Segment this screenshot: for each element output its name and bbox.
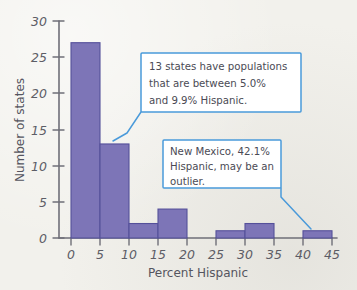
x-tick-label-25: 25 [208, 247, 224, 262]
histogram-bar-30-35 [245, 224, 274, 238]
x-axis-title: Percent Hispanic [148, 266, 248, 280]
y-tick-label-20: 20 [31, 86, 47, 101]
chart-figure: 0 5 10 15 20 25 30 0 5 10 15 20 [0, 0, 357, 290]
x-tick-label-40: 40 [295, 247, 311, 262]
y-axis-tick-labels: 0 5 10 15 20 25 30 [31, 14, 47, 246]
y-tick-label-25: 25 [31, 50, 47, 65]
x-tick-label-30: 30 [237, 247, 253, 262]
leader-line-annotation-outlier [281, 188, 311, 229]
x-axis-tick-labels: 0 5 10 15 20 25 30 35 40 45 [67, 247, 340, 262]
annotation-outlier-line-2: Hispanic, may be an [170, 161, 274, 172]
annotation-bin-5-10-line-2: that are between 5.0% [149, 78, 266, 89]
x-tick-label-35: 35 [266, 247, 282, 262]
histogram-bar-40-45 [303, 231, 332, 238]
x-tick-label-45: 45 [324, 247, 340, 262]
annotation-outlier: New Mexico, 42.1% Hispanic, may be an ou… [163, 140, 281, 188]
annotation-bin-5-10-line-1: 13 states have populations [149, 61, 287, 72]
leader-line-annotation-bin-5-10 [113, 112, 141, 141]
annotation-outlier-line-1: New Mexico, 42.1% [170, 146, 270, 157]
x-tick-label-10: 10 [121, 247, 137, 262]
histogram-bar-5-10 [100, 144, 129, 238]
annotation-bin-5-10-line-3: and 9.9% Hispanic. [149, 95, 247, 106]
y-tick-label-0: 0 [39, 231, 47, 246]
y-axis-title: Number of states [13, 78, 27, 182]
annotation-outlier-line-3: outlier. [170, 176, 205, 187]
x-tick-label-0: 0 [67, 247, 75, 262]
histogram-bar-15-20 [158, 209, 187, 238]
y-tick-label-30: 30 [31, 14, 47, 29]
y-tick-label-5: 5 [39, 195, 47, 210]
x-tick-label-15: 15 [150, 247, 166, 262]
histogram-bar-10-15 [129, 224, 158, 238]
y-tick-label-10: 10 [31, 159, 47, 174]
histogram-bar-25-30 [216, 231, 245, 238]
histogram-plot: 0 5 10 15 20 25 30 0 5 10 15 20 [0, 0, 357, 290]
annotation-bin-5-10: 13 states have populations that are betw… [141, 53, 301, 112]
x-axis-ticks [71, 238, 332, 245]
x-tick-label-5: 5 [96, 247, 104, 262]
histogram-bar-0-5 [71, 43, 100, 238]
y-tick-label-15: 15 [31, 123, 47, 138]
x-tick-label-20: 20 [179, 247, 195, 262]
